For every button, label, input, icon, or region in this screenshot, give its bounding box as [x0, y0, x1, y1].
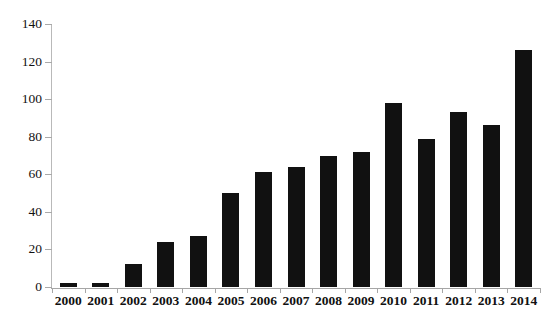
bar-2006 [255, 172, 272, 287]
y-axis-tick-label: 60 [0, 167, 42, 181]
x-axis-tick [117, 288, 118, 293]
bar-2009 [353, 152, 370, 287]
x-axis-tick [377, 288, 378, 293]
y-axis-tick-label: 0 [0, 280, 42, 294]
bar-2014 [515, 50, 532, 287]
bar-2007 [288, 167, 305, 287]
bar-2008 [320, 156, 337, 288]
bar-2011 [418, 139, 435, 287]
bar-2004 [190, 236, 207, 287]
y-axis-tick [45, 99, 52, 100]
x-axis-tick [247, 288, 248, 293]
y-axis-tick [45, 249, 52, 250]
y-axis-line [51, 24, 52, 288]
x-axis-tick [182, 288, 183, 293]
x-axis-tick [345, 288, 346, 293]
x-axis-tick [312, 288, 313, 293]
bar-chart: 020406080100120140 200020012002200320042… [0, 0, 552, 319]
x-axis-tick [442, 288, 443, 293]
y-axis-tick-label: 100 [0, 92, 42, 106]
bar-2001 [92, 283, 109, 287]
bar-2012 [450, 112, 467, 287]
y-axis-tick-label: 80 [0, 130, 42, 144]
x-axis-tick [85, 288, 86, 293]
x-axis-tick [507, 288, 508, 293]
bar-2005 [222, 193, 239, 287]
x-axis-tick-label: 2014 [504, 294, 544, 308]
x-axis-tick [280, 288, 281, 293]
x-axis-tick [52, 288, 53, 293]
x-axis-tick [215, 288, 216, 293]
bar-2003 [157, 242, 174, 287]
x-axis-line [51, 288, 540, 289]
bar-2013 [483, 125, 500, 287]
x-axis-tick [540, 288, 541, 293]
x-axis-tick [150, 288, 151, 293]
x-axis-tick [475, 288, 476, 293]
x-axis-tick [410, 288, 411, 293]
y-axis-tick [45, 287, 52, 288]
y-axis-tick-label: 20 [0, 242, 42, 256]
y-axis-tick [45, 212, 52, 213]
y-axis-tick-label: 120 [0, 55, 42, 69]
bar-2002 [125, 264, 142, 287]
y-axis-tick [45, 174, 52, 175]
y-axis-tick [45, 62, 52, 63]
bar-2000 [60, 283, 77, 287]
y-axis-tick-label: 40 [0, 205, 42, 219]
bar-2010 [385, 103, 402, 287]
y-axis-tick-label: 140 [0, 17, 42, 31]
y-axis-tick [45, 24, 52, 25]
y-axis-tick [45, 137, 52, 138]
